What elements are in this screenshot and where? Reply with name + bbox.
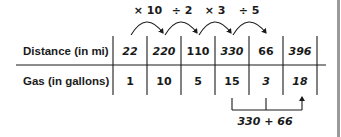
curved-arrow-icon xyxy=(233,22,266,35)
operation-label: × 10 xyxy=(134,4,162,17)
ratio-table-diagram: × 10 ÷ 2 × 3 ÷ 5 Distance (in mi) Gas (i… xyxy=(0,0,341,137)
curved-arrow-icon xyxy=(199,22,231,35)
distance-cell: 330 xyxy=(221,45,244,58)
gas-cell: 15 xyxy=(224,75,239,88)
gas-cell: 3 xyxy=(262,75,270,88)
operation-label: × 3 xyxy=(205,4,226,17)
curved-arrows xyxy=(131,22,266,35)
gas-cell: 5 xyxy=(194,75,202,88)
curved-arrow-icon xyxy=(165,22,197,35)
row-header-distance: Distance (in mi) xyxy=(23,45,109,57)
distance-cell: 66 xyxy=(258,45,273,58)
gas-cell: 18 xyxy=(292,75,307,88)
gas-cell: 10 xyxy=(156,75,171,88)
distance-cell: 396 xyxy=(289,45,312,58)
distance-cell: 22 xyxy=(122,45,137,58)
right-border-bar xyxy=(337,0,340,137)
gas-cell: 1 xyxy=(126,75,134,88)
row-header-gas: Gas (in gallons) xyxy=(23,75,109,87)
distance-cell: 110 xyxy=(187,45,210,58)
operation-label: ÷ 5 xyxy=(239,4,260,17)
sum-annotation: 330 + 66 xyxy=(237,115,292,128)
operation-label: ÷ 2 xyxy=(172,4,193,17)
distance-cell: 220 xyxy=(153,45,176,58)
curved-arrow-icon xyxy=(131,22,163,35)
sum-bracket xyxy=(232,97,302,110)
